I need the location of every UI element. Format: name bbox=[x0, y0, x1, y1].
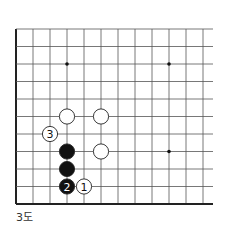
star-point-icon bbox=[167, 62, 171, 66]
black-stone bbox=[59, 144, 74, 159]
star-point-icon bbox=[167, 150, 171, 154]
black-stone bbox=[59, 161, 74, 176]
move-number-label: 1 bbox=[81, 181, 88, 194]
star-point-icon bbox=[65, 62, 69, 66]
white-stone bbox=[93, 144, 108, 159]
move-number-label: 3 bbox=[47, 128, 54, 141]
move-number-label: 2 bbox=[64, 181, 71, 194]
white-stone bbox=[93, 109, 108, 124]
go-board: 321 bbox=[0, 0, 227, 210]
diagram-caption: 3도 bbox=[16, 208, 33, 224]
white-stone bbox=[59, 109, 74, 124]
grid-lines bbox=[16, 29, 213, 204]
